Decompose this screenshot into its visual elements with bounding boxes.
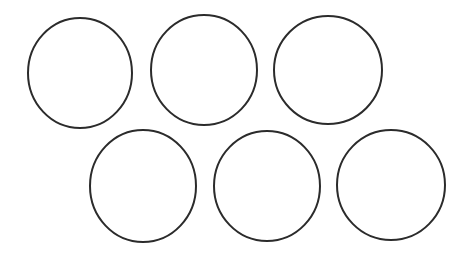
circles-group: [0, 0, 461, 269]
canvas-background: [0, 0, 461, 269]
diagram-canvas: [0, 0, 461, 269]
